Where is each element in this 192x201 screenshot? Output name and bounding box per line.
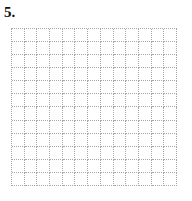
grid-cell xyxy=(88,147,101,160)
grid-cell xyxy=(50,55,63,68)
grid-cell xyxy=(25,173,38,186)
grid-cell xyxy=(63,29,76,42)
grid-cell xyxy=(139,68,152,81)
grid-cell xyxy=(25,160,38,173)
grid-cell xyxy=(25,81,38,94)
grid-cell xyxy=(152,147,165,160)
grid-cell xyxy=(37,147,50,160)
grid-cell xyxy=(12,121,25,134)
grid-cell xyxy=(164,173,177,186)
grid-cell xyxy=(88,55,101,68)
grid-cell xyxy=(164,147,177,160)
grid-cell xyxy=(164,42,177,55)
grid-cell xyxy=(126,94,139,107)
grid-cell xyxy=(50,81,63,94)
grid-cell xyxy=(88,121,101,134)
grid-cell xyxy=(37,81,50,94)
grid-cell xyxy=(101,29,114,42)
grid-cell xyxy=(63,121,76,134)
grid-cell xyxy=(152,173,165,186)
grid-cell xyxy=(37,173,50,186)
grid-cell xyxy=(50,121,63,134)
grid-cell xyxy=(101,68,114,81)
grid-cell xyxy=(12,81,25,94)
grid-cell xyxy=(88,160,101,173)
grid-cell xyxy=(139,134,152,147)
grid-cell xyxy=(25,147,38,160)
grid-cell xyxy=(63,160,76,173)
grid-cell xyxy=(50,134,63,147)
grid-cell xyxy=(75,160,88,173)
grid-cell xyxy=(164,68,177,81)
grid-cell xyxy=(152,94,165,107)
grid-cell xyxy=(50,94,63,107)
grid-cell xyxy=(114,107,127,120)
grid-cell xyxy=(50,107,63,120)
grid-cell xyxy=(152,81,165,94)
grid-cell xyxy=(12,29,25,42)
grid-cell xyxy=(12,107,25,120)
grid-cell xyxy=(12,173,25,186)
grid-cell xyxy=(37,107,50,120)
grid-cell xyxy=(152,42,165,55)
grid-cell xyxy=(12,160,25,173)
grid-cell xyxy=(88,173,101,186)
grid-cell xyxy=(126,68,139,81)
grid-cell xyxy=(126,173,139,186)
grid-cell xyxy=(101,121,114,134)
grid-cell xyxy=(126,134,139,147)
grid-cell xyxy=(63,173,76,186)
grid-cell xyxy=(25,29,38,42)
grid-cell xyxy=(126,160,139,173)
grid-cell xyxy=(75,55,88,68)
grid-cell xyxy=(139,81,152,94)
worksheet-page: 5. xyxy=(0,0,192,201)
grid-cell xyxy=(25,42,38,55)
grid-cell xyxy=(114,121,127,134)
grid-cell xyxy=(164,29,177,42)
grid-cell xyxy=(126,81,139,94)
grid-cell xyxy=(88,134,101,147)
grid-cell xyxy=(101,160,114,173)
grid-cell xyxy=(75,107,88,120)
grid-cell xyxy=(139,107,152,120)
grid-cell xyxy=(50,42,63,55)
grid-cell xyxy=(164,134,177,147)
grid-cell xyxy=(126,42,139,55)
grid-cell xyxy=(50,29,63,42)
grid-cell xyxy=(25,107,38,120)
grid-cell xyxy=(75,68,88,81)
grid-cell xyxy=(101,107,114,120)
grid-cell xyxy=(164,160,177,173)
grid-cell xyxy=(152,121,165,134)
grid-cell xyxy=(114,173,127,186)
grid-cell xyxy=(164,55,177,68)
grid-cell xyxy=(139,147,152,160)
grid-cell xyxy=(152,55,165,68)
grid-cell xyxy=(25,55,38,68)
grid-cell xyxy=(75,94,88,107)
grid-cell xyxy=(75,134,88,147)
problem-number-label: 5. xyxy=(4,3,15,21)
grid-cell xyxy=(164,121,177,134)
grid-cell xyxy=(101,42,114,55)
grid-cell xyxy=(12,147,25,160)
grid-cell xyxy=(75,121,88,134)
grid-cell xyxy=(126,121,139,134)
grid-cell xyxy=(63,147,76,160)
grid-cell xyxy=(50,68,63,81)
grid-cell xyxy=(101,81,114,94)
grid-cell xyxy=(101,134,114,147)
grid-cell xyxy=(63,55,76,68)
grid-cell xyxy=(63,81,76,94)
dot-grid xyxy=(11,28,177,186)
grid-cell xyxy=(37,55,50,68)
grid-cell xyxy=(114,29,127,42)
grid-cell xyxy=(63,94,76,107)
grid-cell xyxy=(75,29,88,42)
grid-cell xyxy=(114,147,127,160)
grid-cell xyxy=(12,134,25,147)
grid-cell xyxy=(126,55,139,68)
grid-cell xyxy=(139,121,152,134)
grid-cell xyxy=(152,68,165,81)
